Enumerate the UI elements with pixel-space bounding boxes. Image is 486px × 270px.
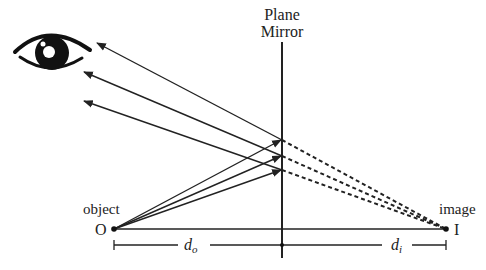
object-point-label: O	[95, 221, 107, 238]
image-distance-label: di	[391, 236, 402, 255]
plane-mirror-diagram: Plane Mirror object O image I do di	[0, 0, 486, 270]
image-label: image	[439, 201, 476, 217]
reflected-rays	[84, 43, 282, 170]
mirror-label-line2: Mirror	[261, 23, 304, 40]
object-label: object	[83, 201, 120, 217]
mirror-label-line1: Plane	[264, 6, 300, 23]
mirror-axis-point	[280, 243, 284, 247]
virtual-rays	[282, 140, 446, 229]
object-distance-label: do	[184, 236, 198, 255]
image-point-label: I	[454, 221, 459, 238]
eye-icon	[15, 35, 90, 70]
image-point	[443, 226, 449, 232]
incident-rays	[114, 140, 281, 229]
object-point	[111, 226, 117, 232]
